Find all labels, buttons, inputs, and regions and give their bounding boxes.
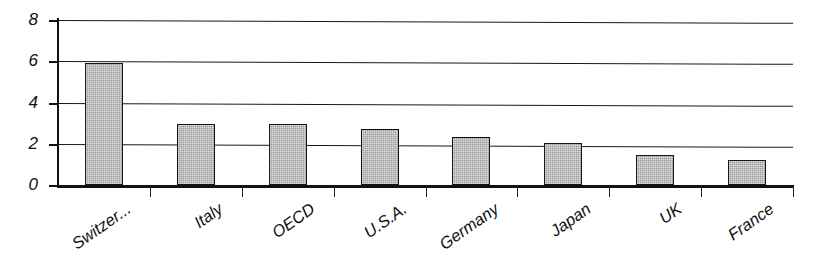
gridline-y-4 <box>58 103 793 107</box>
x-axis-label-italy: Italy <box>191 200 225 231</box>
gridline-y-8 <box>58 20 793 24</box>
gridline-y-6 <box>58 61 793 65</box>
y-axis-tick-label: 6 <box>0 52 38 69</box>
y-axis-tick-label: 2 <box>0 135 38 152</box>
y-axis-tick-label: 0 <box>0 176 38 193</box>
bar-italy <box>177 124 215 185</box>
x-tick-mark <box>150 186 151 197</box>
y-tick-mark <box>49 185 58 187</box>
bar-switzer <box>85 63 123 185</box>
x-axis-label-oecd: OECD <box>269 200 318 241</box>
bar-chart: 02468Switzer...ItalyOECDU.S.A.GermanyJap… <box>0 0 826 266</box>
gridline-y-2 <box>58 144 793 148</box>
x-axis-label-japan: Japan <box>547 200 593 239</box>
bar-uk <box>636 155 674 185</box>
y-tick-mark <box>49 103 58 105</box>
x-tick-mark <box>793 186 794 197</box>
x-tick-mark <box>334 186 335 197</box>
bar-u-s-a <box>361 129 399 185</box>
x-tick-mark <box>426 186 427 197</box>
plot-area <box>58 20 793 185</box>
x-tick-mark <box>242 186 243 197</box>
bar-germany <box>452 137 490 185</box>
x-tick-mark <box>701 186 702 197</box>
x-axis-label-u-s-a: U.S.A. <box>361 200 410 241</box>
x-tick-mark <box>517 186 518 197</box>
y-tick-mark <box>49 144 58 146</box>
bar-oecd <box>269 124 307 185</box>
y-axis-tick-label: 8 <box>0 11 38 28</box>
y-tick-mark <box>49 61 58 63</box>
x-axis-label-switzer: Switzer... <box>69 200 134 252</box>
y-tick-mark <box>49 20 58 22</box>
bar-japan <box>544 143 582 185</box>
x-axis-label-uk: UK <box>657 200 685 227</box>
x-axis-label-germany: Germany <box>436 200 501 252</box>
x-axis-label-france: France <box>725 200 777 243</box>
x-tick-mark <box>609 186 610 197</box>
y-axis-tick-label: 4 <box>0 94 38 111</box>
bar-france <box>728 160 766 185</box>
